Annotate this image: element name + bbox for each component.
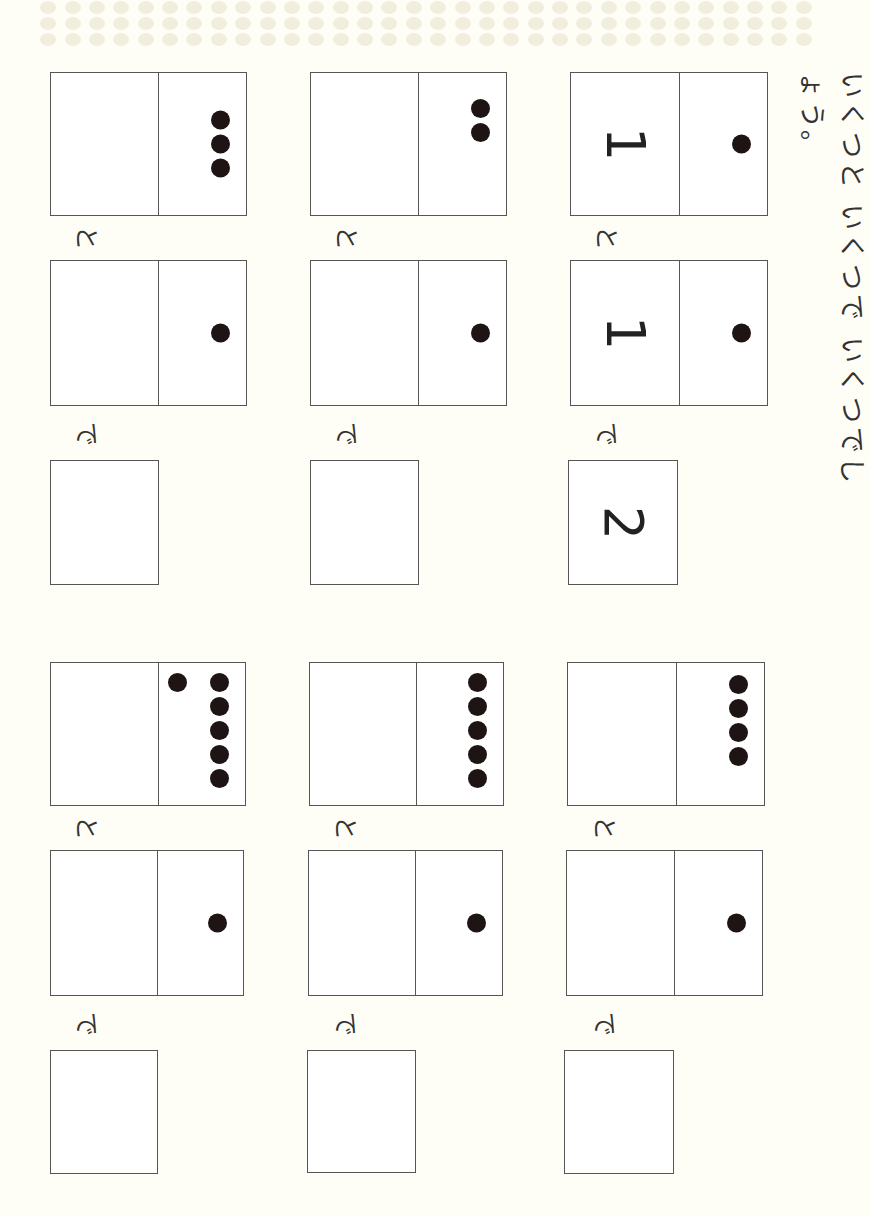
- label-de: で: [71, 1012, 106, 1036]
- band-dot: [503, 33, 519, 46]
- label-to: と: [591, 226, 626, 250]
- problem-3-box-2: [50, 260, 247, 406]
- dot-icon: [211, 135, 230, 154]
- answer-cell[interactable]: [51, 261, 159, 405]
- band-dot: [40, 33, 56, 46]
- band-dot: [235, 33, 251, 46]
- band-dot: [723, 17, 739, 30]
- band-dot: [211, 17, 227, 30]
- band-dot: [698, 1, 714, 14]
- dot-icon: [468, 673, 487, 692]
- dot-icon: [468, 721, 487, 740]
- band-dot: [406, 1, 422, 14]
- dot-icon: [729, 699, 748, 718]
- band-dot: [625, 1, 641, 14]
- problem-5-box-2: [308, 850, 503, 996]
- answer-cell[interactable]: [311, 73, 419, 215]
- band-dot: [576, 33, 592, 46]
- dot-icon: [210, 673, 229, 692]
- band-dot: [601, 33, 617, 46]
- band-dot: [576, 17, 592, 30]
- band-dot: [284, 1, 300, 14]
- band-dot: [455, 33, 471, 46]
- band-dot: [455, 1, 471, 14]
- band-dot: [552, 1, 568, 14]
- band-dot: [674, 17, 690, 30]
- label-to: と: [71, 226, 106, 250]
- band-dot: [381, 1, 397, 14]
- answer-cell[interactable]: [568, 663, 677, 805]
- label-de: で: [330, 1012, 365, 1036]
- problem-4-answer-box[interactable]: [564, 1050, 674, 1174]
- problem-1-answer-box[interactable]: 2: [568, 460, 678, 585]
- dot-icon: [732, 324, 751, 343]
- band-dot: [113, 33, 129, 46]
- answer-cell[interactable]: [309, 851, 416, 995]
- band-dot: [723, 33, 739, 46]
- problem-6-answer-box[interactable]: [50, 1050, 158, 1174]
- label-de: で: [71, 422, 106, 446]
- band-dot: [235, 17, 251, 30]
- dot-icon: [471, 99, 490, 118]
- dot-icon: [727, 914, 746, 933]
- band-dot: [333, 33, 349, 46]
- band-dot: [723, 1, 739, 14]
- problem-2-answer-box[interactable]: [310, 460, 419, 585]
- dot-group: [467, 914, 486, 933]
- answer-numeral[interactable]: 1: [598, 127, 652, 161]
- band-dot: [528, 33, 544, 46]
- band-dot: [528, 1, 544, 14]
- band-dot: [138, 33, 154, 46]
- instruction-container: いくつと いくつで いくつでしょう。: [792, 72, 832, 512]
- dot-group: [468, 673, 487, 788]
- band-dot: [284, 17, 300, 30]
- band-dot: [430, 33, 446, 46]
- band-dot: [284, 33, 300, 46]
- band-dot: [162, 17, 178, 30]
- band-dot: [357, 33, 373, 46]
- dot-icon: [210, 697, 229, 716]
- dot-icon: [210, 745, 229, 764]
- band-dot: [211, 1, 227, 14]
- band-dot: [138, 17, 154, 30]
- dot-icon: [729, 675, 748, 694]
- dot-group: [727, 914, 746, 933]
- band-dot: [771, 33, 787, 46]
- problem-5-answer-box[interactable]: [307, 1050, 416, 1173]
- band-dot: [308, 1, 324, 14]
- band-dot: [674, 1, 690, 14]
- dot-icon: [211, 111, 230, 130]
- label-de: で: [591, 422, 626, 446]
- answer-cell[interactable]: [311, 261, 419, 405]
- band-dot: [162, 1, 178, 14]
- dot-icon: [208, 914, 227, 933]
- band-dot: [503, 1, 519, 14]
- problem-5-box-1: [309, 662, 504, 806]
- decorative-dot-band: [36, 0, 816, 48]
- problem-3-answer-box[interactable]: [50, 460, 159, 585]
- answer-cell[interactable]: [51, 851, 158, 995]
- dot-group: [729, 675, 748, 766]
- answer-cell[interactable]: [51, 73, 159, 215]
- problem-6-box-1: [50, 662, 246, 806]
- answer-cell[interactable]: [310, 663, 417, 805]
- band-dot: [747, 1, 763, 14]
- band-dot: [552, 33, 568, 46]
- dot-icon: [168, 673, 187, 692]
- band-dot: [650, 17, 666, 30]
- dot-icon: [468, 745, 487, 764]
- band-dot: [40, 17, 56, 30]
- answer-cell[interactable]: [567, 851, 675, 995]
- band-dot: [138, 1, 154, 14]
- band-dot: [771, 17, 787, 30]
- band-dot: [381, 17, 397, 30]
- dot-icon: [467, 914, 486, 933]
- answer-numeral[interactable]: 1: [598, 316, 652, 350]
- answer-cell[interactable]: [51, 663, 159, 805]
- band-dot: [40, 1, 56, 14]
- problem-2-box-1: [310, 72, 507, 216]
- answer-numeral: 2: [596, 505, 650, 539]
- band-dot: [625, 33, 641, 46]
- band-dot: [796, 33, 812, 46]
- dot-group: [732, 324, 751, 343]
